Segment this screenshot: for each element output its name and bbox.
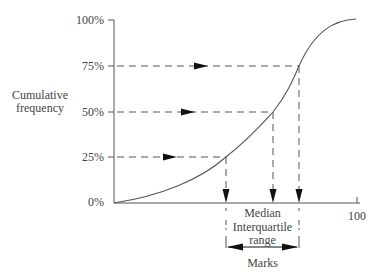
quartile-guides [117, 66, 299, 196]
arrow-right-icon [194, 63, 208, 70]
ogive-chart [0, 0, 384, 278]
y-tick-label-25: 25% [60, 151, 104, 164]
y-tick-label-100: 100% [60, 14, 104, 27]
x-tick-label-100: 100 [341, 210, 373, 223]
arrow-down-icon [270, 189, 277, 203]
arrow-right-icon [163, 154, 177, 161]
iqr-label-line2: range [226, 234, 299, 247]
x-axis-title: Marks [226, 257, 299, 270]
ogive-curve [114, 19, 356, 203]
y-tick-label-0: 0% [60, 196, 104, 209]
arrowheads [163, 63, 303, 204]
arrow-down-icon [223, 189, 230, 203]
arrow-down-icon [296, 189, 303, 203]
y-tick-label-75: 75% [60, 60, 104, 73]
y-axis-title-line2: frequency [2, 102, 78, 115]
arrow-right-icon [181, 109, 195, 116]
median-label: Median [226, 207, 299, 220]
